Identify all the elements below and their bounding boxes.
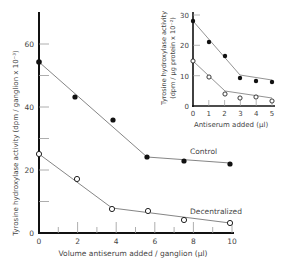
main-y-ticks (39, 44, 49, 202)
inset-decentralized-point (191, 59, 195, 63)
y-tick-20: 20 (24, 166, 34, 175)
y-tick-0: 0 (29, 229, 34, 238)
inset-x-tick-0: 0 (191, 110, 195, 118)
inset-decentralized-point (254, 95, 258, 99)
inset-x-tick-5: 5 (270, 110, 274, 118)
decentralized-point (36, 151, 41, 156)
inset-y-tick-0: 0 (185, 103, 189, 111)
decentralized-point (74, 176, 79, 181)
inset-control-point (254, 79, 258, 83)
inset-decentralized-point (207, 75, 211, 79)
y-tick-40: 40 (24, 103, 34, 112)
control-point (227, 161, 232, 166)
main-y-axis-label: Tyrosine hydroxylase activity (dpm / gan… (12, 50, 20, 237)
inset-y-tick-10: 10 (180, 73, 189, 81)
x-tick-0: 0 (37, 237, 42, 246)
inset-x-ticks (209, 100, 272, 106)
inset-decentralized-point (223, 92, 227, 96)
inset-y-tick-labels: 0 10 20 30 (180, 12, 189, 111)
control-annotation: Control (190, 147, 217, 156)
decentralized-point (109, 206, 114, 211)
inset-x-tick-labels: 0 1 2 3 4 5 (191, 110, 274, 118)
inset-control-point (238, 76, 242, 80)
control-point (181, 158, 186, 163)
inset-control-point (207, 40, 211, 44)
inset-y-axis-label-line2: (dpm / µg protein x 10⁻²) (169, 17, 177, 99)
y-tick-60: 60 (24, 40, 34, 49)
inset-y-axis-label-line1: Tyrosine hydroxylase activity (160, 11, 168, 106)
inset-control-point (223, 54, 227, 58)
inset-x-axis-label: Antiserum added (µl) (194, 121, 269, 129)
main-y-tick-labels: 0 20 40 60 (24, 40, 34, 238)
x-tick-6: 6 (152, 237, 157, 246)
control-point (36, 59, 42, 65)
inset-control-series (191, 19, 274, 84)
main-plot: 0 20 40 60 0 2 4 6 8 10 Volume anti (12, 12, 242, 258)
main-x-ticks (58, 222, 232, 233)
inset-decentralized-point (238, 96, 242, 100)
inset-x-tick-1: 1 (207, 110, 211, 118)
chart-canvas: 0 20 40 60 0 2 4 6 8 10 Volume anti (0, 0, 283, 267)
decentralized-point (145, 208, 150, 213)
inset-x-tick-2: 2 (222, 110, 226, 118)
inset-control-fit-line (193, 21, 272, 80)
x-tick-2: 2 (75, 237, 80, 246)
decentralized-point (227, 220, 232, 225)
inset-plot: 0 10 20 30 0 1 2 3 4 5 Antiserum added (… (160, 11, 275, 129)
decentralized-annotation: Decentralized (190, 207, 242, 216)
x-tick-4: 4 (114, 237, 119, 246)
control-point (144, 154, 149, 159)
inset-control-point (191, 19, 195, 23)
x-tick-8: 8 (191, 237, 196, 246)
control-point (110, 117, 115, 122)
main-x-axis-label: Volume antiserum added / ganglion (µl) (59, 249, 208, 258)
decentralized-point (181, 217, 186, 222)
inset-y-tick-20: 20 (180, 42, 189, 50)
inset-y-tick-30: 30 (180, 12, 189, 20)
main-x-tick-labels: 0 2 4 6 8 10 (37, 237, 237, 246)
control-point (72, 94, 77, 99)
inset-x-tick-3: 3 (238, 110, 242, 118)
inset-decentralized-point (270, 99, 274, 103)
inset-control-point (270, 80, 274, 84)
inset-x-tick-4: 4 (254, 110, 259, 118)
x-tick-10: 10 (227, 237, 237, 246)
